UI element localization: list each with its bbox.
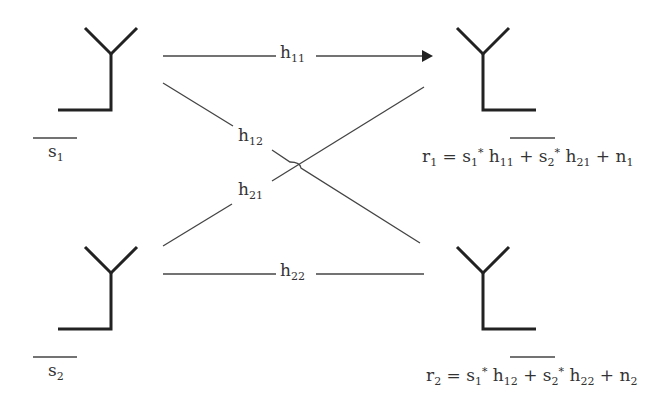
- channel-h21-line: [272, 87, 424, 181]
- antenna-rx1-icon: [457, 28, 509, 54]
- antenna-tx2-icon: [85, 247, 137, 273]
- antenna-rx2-base: [483, 273, 536, 329]
- channel-h12-line: [272, 150, 420, 243]
- channel-h12-line: [163, 83, 233, 126]
- channel-h12-label: h12: [238, 127, 263, 147]
- tx1-label: s1: [48, 143, 64, 163]
- antenna-rx2-icon: [457, 247, 509, 273]
- diagram-canvas: [0, 0, 662, 410]
- channel-h22-label: h22: [280, 262, 305, 282]
- rx1-equation: r1 = s1* h11 + s2* h21 + n1: [422, 147, 633, 168]
- rx2-equation: r2 = s1* h12 + s2* h22 + n2: [426, 366, 637, 387]
- antenna-tx1-icon: [85, 28, 137, 54]
- antenna-tx1-base: [58, 54, 111, 110]
- tx2-label: s2: [48, 362, 64, 382]
- antenna-tx2-base: [58, 273, 111, 329]
- channel-h11-label: h11: [280, 44, 305, 64]
- channel-h21-label: h21: [238, 181, 263, 201]
- arrow-head-icon: [422, 50, 433, 62]
- antenna-rx1-base: [483, 54, 536, 110]
- channel-h21-line: [163, 204, 232, 246]
